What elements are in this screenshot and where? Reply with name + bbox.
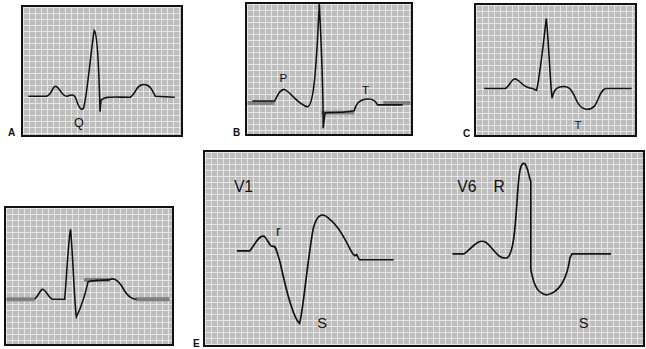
r-wave-label-v1: r [276, 224, 281, 239]
s-wave-label-v6: S [579, 315, 589, 331]
ecg-panel-e: V1 r S V6 R S [203, 150, 645, 347]
ecg-panel-c: T [474, 3, 637, 137]
ecg-trace-d [6, 208, 172, 344]
panel-label-b: B [233, 127, 240, 138]
p-wave-label: P [280, 71, 288, 84]
panel-label-a: A [8, 127, 15, 138]
t-wave-label-c: T [574, 118, 581, 131]
ecg-trace-e: V1 r S V6 R S [205, 152, 643, 345]
ecg-panel-a: Q [21, 5, 183, 137]
s-wave-label-v1: S [317, 315, 327, 331]
ecg-trace-c: T [476, 5, 635, 135]
panel-label-e: E [193, 338, 200, 349]
panel-label-c: C [463, 128, 470, 139]
ecg-panel-d [4, 206, 174, 346]
t-wave-label: T [362, 83, 369, 96]
q-wave-label: Q [74, 116, 84, 130]
lead-v1-label: V1 [234, 178, 253, 195]
ecg-trace-b: P T [247, 4, 411, 134]
lead-v6-label: V6 [457, 178, 476, 195]
r-wave-label-v6: R [494, 178, 505, 195]
ecg-trace-a: Q [23, 7, 181, 135]
ecg-panel-b: P T [245, 2, 413, 136]
